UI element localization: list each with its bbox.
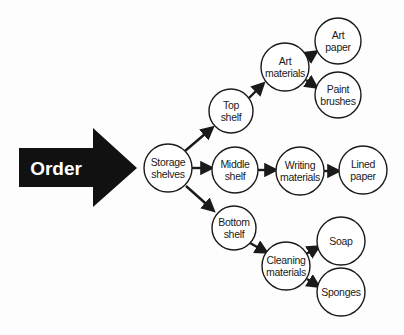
node-label: Writing <box>285 159 316 171</box>
node-bottom-shelf: Bottomshelf <box>212 206 256 250</box>
node-top-shelf: Topshelf <box>209 89 253 133</box>
node-sponges: Sponges <box>317 268 365 316</box>
node-art-materials: Artmaterials <box>261 43 309 91</box>
node-soap: Soap <box>317 217 365 265</box>
node-label: Sponges <box>321 286 360 298</box>
node-label: Cleaning <box>266 254 306 266</box>
node-label: Soap <box>329 235 353 247</box>
node-lined-paper: Linedpaper <box>339 146 387 194</box>
node-label: Lined <box>351 158 376 170</box>
node-label: Art <box>332 29 345 41</box>
arrow-cleaning-materials-to-soap <box>306 247 318 254</box>
order-arrow: Order <box>19 128 137 207</box>
node-label: shelf <box>225 170 246 182</box>
arrow-art-materials-to-paint-brushes <box>306 80 316 87</box>
arrow-storage-shelves-to-top-shelf <box>185 128 212 151</box>
node-art-paper: Artpaper <box>315 18 361 64</box>
node-label: Middle <box>220 158 250 170</box>
arrow-storage-shelves-to-bottom-shelf <box>186 186 213 210</box>
node-label: Top <box>223 99 239 111</box>
nodes: StorageshelvesTopshelfMiddleshelfBottoms… <box>144 18 387 316</box>
arrow-art-materials-to-art-paper <box>307 52 316 58</box>
arrow-top-shelf-to-art-materials <box>249 84 263 98</box>
node-label: brushes <box>320 95 355 107</box>
node-label: materials <box>280 171 320 183</box>
node-writing-materials: Writingmaterials <box>276 147 324 195</box>
node-label: materials <box>266 266 306 278</box>
node-label: paper <box>350 170 376 182</box>
node-label: Art <box>279 55 292 67</box>
node-label: Paint <box>327 83 350 95</box>
node-label: Storage <box>151 156 186 168</box>
arrow-cleaning-materials-to-sponges <box>307 279 318 286</box>
node-cleaning-materials: Cleaningmaterials <box>262 242 310 290</box>
arrow-bottom-shelf-to-cleaning-materials <box>250 243 266 252</box>
node-label: shelf <box>221 111 242 123</box>
node-label: shelf <box>224 228 245 240</box>
order-label: Order <box>30 158 82 179</box>
node-paint-brushes: Paintbrushes <box>315 72 361 118</box>
node-middle-shelf: Middleshelf <box>212 147 258 193</box>
node-storage-shelves: Storageshelves <box>144 144 192 192</box>
order-storage-diagram: Order StorageshelvesTopshelfMiddleshelfB… <box>0 0 404 335</box>
node-label: shelves <box>151 168 185 180</box>
node-label: Bottom <box>218 216 250 228</box>
node-label: paper <box>325 41 351 53</box>
node-label: materials <box>265 67 305 79</box>
